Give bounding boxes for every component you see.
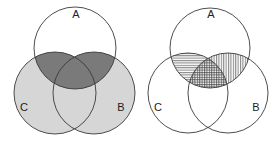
venn-diagram-left: A C B	[14, 7, 135, 134]
venn-diagrams-canvas: A C B A C B	[0, 0, 279, 142]
set-c-label: C	[154, 101, 162, 113]
set-b-label: B	[252, 101, 259, 113]
set-a-label: A	[207, 8, 215, 20]
set-b-label: B	[117, 101, 124, 113]
venn-diagram-right: A C B	[148, 8, 268, 133]
set-c-label: C	[20, 101, 28, 113]
set-a-label: A	[72, 8, 80, 20]
